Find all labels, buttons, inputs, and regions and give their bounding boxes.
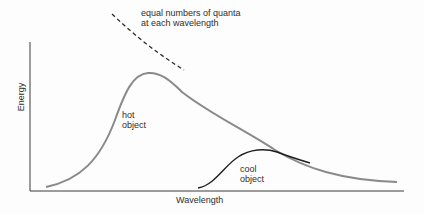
hot-object-curve [46,73,397,187]
annotation-line-2: at each wavelength [141,18,241,28]
diagram-canvas: Energy Wavelength equal numbers of quant… [0,0,424,214]
equal-quanta-annotation: equal numbers of quanta at each waveleng… [141,8,241,28]
hot-object-label: hot object [122,110,146,130]
cool-label-line-1: cool [240,164,264,174]
energy-wavelength-plot [0,0,424,214]
x-axis-label: Wavelength [176,195,223,205]
y-axis-label: Energy [16,79,26,115]
hot-label-line-1: hot [122,110,146,120]
annotation-line-1: equal numbers of quanta [141,8,241,18]
hot-label-line-2: object [122,120,146,130]
cool-object-label: cool object [240,164,264,184]
cool-label-line-2: object [240,174,264,184]
